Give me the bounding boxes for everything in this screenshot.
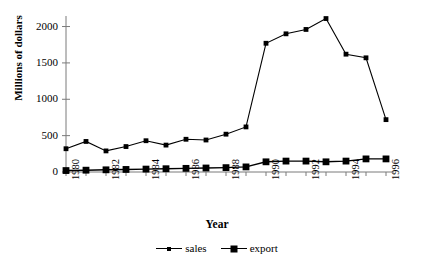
legend-label: sales [185, 243, 206, 254]
legend-entry-export: export [221, 243, 278, 254]
y-tick-label: 1000 [14, 92, 58, 104]
x-tick-label: 1984 [150, 159, 161, 180]
data-point-export [243, 164, 250, 171]
y-tick-label: 1500 [14, 56, 58, 68]
data-point-export [223, 164, 230, 171]
data-point-export [303, 158, 310, 165]
data-point-export [143, 166, 150, 173]
data-point-sales [164, 143, 169, 148]
data-point-sales [184, 137, 189, 142]
data-point-export [363, 156, 370, 163]
data-point-export [263, 158, 270, 165]
legend-entry-sales: sales [156, 243, 206, 254]
data-point-sales [384, 117, 389, 122]
x-tick-label: 1988 [230, 159, 241, 180]
data-point-sales [224, 132, 229, 137]
data-point-sales [344, 52, 349, 57]
x-tick-label: 1986 [190, 159, 201, 180]
data-point-export [163, 165, 170, 172]
legend-label: export [250, 243, 278, 254]
data-point-export [103, 166, 110, 173]
data-point-sales [264, 41, 269, 46]
data-point-export [383, 156, 390, 163]
legend-marker-icon [156, 244, 182, 253]
data-point-export [343, 158, 350, 165]
data-point-sales [64, 146, 69, 151]
data-point-sales [104, 149, 109, 154]
x-tick-label: 1990 [270, 159, 281, 180]
x-tick-label: 1980 [70, 159, 81, 180]
x-tick-label: 1996 [390, 159, 401, 180]
x-tick-label: 1994 [350, 159, 361, 180]
data-point-export [323, 158, 330, 165]
data-point-sales [284, 31, 289, 36]
series-line-sales [66, 19, 386, 151]
y-tick-label: 2000 [14, 20, 58, 32]
plot-area [0, 0, 434, 273]
data-point-sales [124, 144, 129, 149]
axes-layer [62, 16, 394, 176]
data-point-export [123, 166, 130, 173]
data-point-sales [84, 139, 89, 144]
data-point-sales [304, 27, 309, 32]
x-tick-label: 1982 [110, 159, 121, 180]
x-tick-label: 1992 [310, 159, 321, 180]
data-point-export [63, 167, 70, 174]
data-point-export [83, 167, 90, 174]
data-point-sales [324, 16, 329, 21]
data-point-export [283, 158, 290, 165]
chart-legend: salesexport [0, 243, 434, 254]
data-point-export [203, 165, 210, 172]
y-tick-label: 0 [14, 165, 58, 177]
y-tick-label: 500 [14, 129, 58, 141]
data-point-export [183, 165, 190, 172]
series-layer [63, 16, 390, 174]
data-point-sales [364, 55, 369, 60]
data-point-sales [244, 125, 249, 130]
data-point-sales [204, 138, 209, 143]
legend-marker-icon [221, 244, 247, 253]
chart-figure: Millions of dollars Year 050010001500200… [0, 0, 434, 273]
data-point-sales [144, 138, 149, 143]
